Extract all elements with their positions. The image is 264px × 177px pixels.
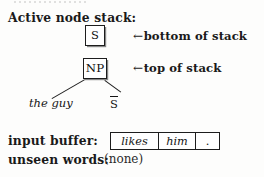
tree-leaf-the-guy: the guy bbox=[29, 96, 73, 110]
figure-canvas: Active node stack: S ←bottom of stack NP… bbox=[0, 0, 264, 177]
left-arrow-icon: ← bbox=[133, 29, 143, 43]
active-node-stack-label: Active node stack: bbox=[8, 10, 136, 25]
tree-branch-right bbox=[104, 80, 121, 93]
input-buffer-cell: . bbox=[196, 133, 219, 149]
tree-leaf-s-bar-symbol: S bbox=[110, 96, 118, 110]
bottom-of-stack-text: bottom of stack bbox=[144, 29, 247, 43]
tree-leaf-s-bar: S bbox=[110, 96, 118, 111]
input-buffer-cell: him bbox=[159, 133, 196, 149]
stack-node-np-symbol: NP bbox=[86, 63, 104, 75]
input-buffer-label: input buffer: bbox=[8, 133, 98, 148]
stack-node-s-symbol: S bbox=[91, 30, 99, 42]
unseen-words-label: unseen words: bbox=[8, 152, 109, 167]
top-of-stack-annotation: ←top of stack bbox=[133, 61, 221, 75]
input-buffer-cell: likes bbox=[111, 133, 159, 149]
input-buffer-box: likes him . bbox=[110, 132, 220, 150]
top-of-stack-text: top of stack bbox=[144, 61, 222, 75]
bottom-of-stack-annotation: ←bottom of stack bbox=[133, 29, 247, 43]
stack-node-np: NP bbox=[83, 58, 107, 79]
stack-node-s: S bbox=[85, 25, 105, 46]
scan-artifact bbox=[14, 1, 86, 3]
unseen-words-value: (none) bbox=[104, 152, 143, 166]
left-arrow-icon: ← bbox=[133, 61, 143, 75]
